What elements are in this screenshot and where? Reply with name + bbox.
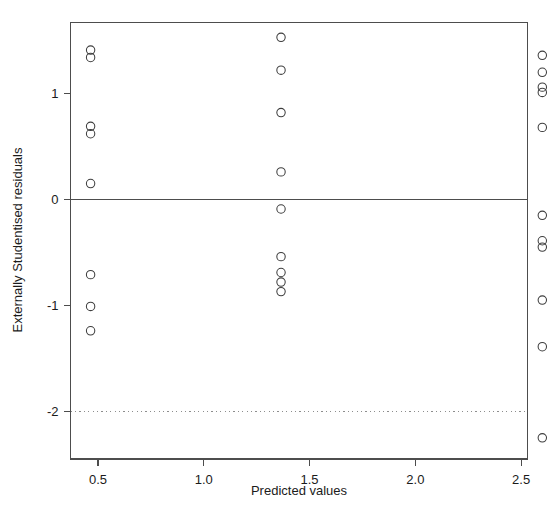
x-tick-label: 2.0 — [406, 472, 424, 487]
scatter-plot-figure: 0.51.01.52.02.5 10-1-2 Predicted values … — [0, 0, 554, 518]
y-tick-label: -1 — [47, 298, 59, 313]
y-axis-label: Externally Studentised residuals — [10, 147, 25, 332]
x-axis-label: Predicted values — [251, 483, 348, 498]
y-tick-label: -2 — [47, 404, 59, 419]
x-tick-label: 0.5 — [89, 472, 107, 487]
y-tick-label: 1 — [51, 86, 58, 101]
y-tick-label: 0 — [51, 192, 58, 207]
plot-canvas: 0.51.01.52.02.5 10-1-2 Predicted values … — [0, 0, 554, 518]
x-tick-label: 1.0 — [195, 472, 213, 487]
x-tick-label: 2.5 — [512, 472, 530, 487]
